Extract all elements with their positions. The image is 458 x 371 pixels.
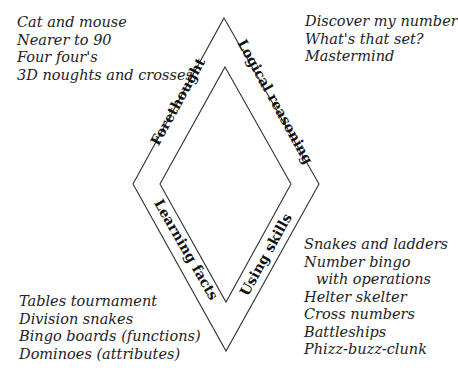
list-item: Cat and mouse [17, 14, 193, 32]
band-label-learning-facts: Learning facts [151, 196, 222, 302]
list-item: 3D noughts and crosses [17, 67, 193, 85]
list-item: Tables tournament [19, 293, 201, 311]
list-item: Number bingo [304, 254, 448, 272]
list-item: Four four's [17, 49, 193, 67]
list-item: Division snakes [19, 311, 201, 329]
list-item: Cross numbers [304, 306, 448, 324]
list-item: Phizz-buzz-clunk [304, 341, 448, 359]
list-item: Helter skelter [304, 289, 448, 307]
list-item: Nearer to 90 [17, 32, 193, 50]
list-item: Mastermind [305, 48, 458, 66]
logical-reasoning-games-list: Discover my number What's that set? Mast… [305, 13, 458, 66]
list-item: Dominoes (attributes) [19, 346, 201, 364]
using-skills-games-list: Snakes and ladders Number bingo with ope… [304, 236, 448, 359]
list-item-continuation: with operations [304, 271, 448, 289]
list-item: Battleships [304, 324, 448, 342]
band-label-using-skills: Using skills [236, 211, 294, 299]
list-item: Discover my number [305, 13, 458, 31]
forethought-games-list: Cat and mouse Nearer to 90 Four four's 3… [17, 14, 193, 84]
list-item: Bingo boards (functions) [19, 328, 201, 346]
list-item: Snakes and ladders [304, 236, 448, 254]
list-item: What's that set? [305, 31, 458, 49]
learning-facts-games-list: Tables tournament Division snakes Bingo … [19, 293, 201, 363]
